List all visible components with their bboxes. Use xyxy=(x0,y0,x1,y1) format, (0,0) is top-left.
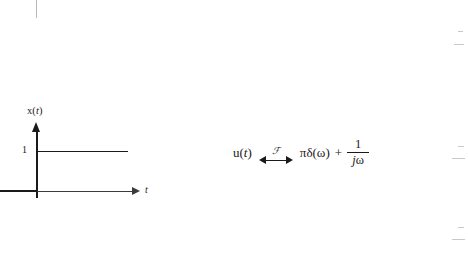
amplitude-tick-label: 1 xyxy=(22,144,27,155)
t-axis-line xyxy=(36,191,134,192)
rhs-impulse-term: πδ(ω) xyxy=(300,146,330,159)
script-f-icon: ℱ xyxy=(272,146,280,156)
fraction-denominator: jω xyxy=(349,153,367,167)
scan-artifact-edge-mark xyxy=(452,239,465,240)
arrow-head-right-icon xyxy=(286,156,293,164)
figure-page: x(t) t 1 u(t) ℱ πδ(ω) + 1 jω xyxy=(0,0,468,275)
signal-segment-negative-time xyxy=(0,190,37,192)
y-axis-label-function: x xyxy=(27,105,32,116)
scan-artifact-edge-mark xyxy=(458,31,463,32)
scan-artifact-edge-mark xyxy=(458,227,464,228)
t-axis-label: t xyxy=(145,184,148,195)
fraction-numerator: 1 xyxy=(352,138,364,152)
y-axis-label-variable: t xyxy=(36,105,39,116)
scan-artifact-edge-mark xyxy=(454,44,464,45)
equation-lhs-close-paren: ) xyxy=(247,145,251,160)
fourier-transform-pair-equation: u(t) ℱ πδ(ω) + 1 jω xyxy=(233,138,369,166)
scan-artifact-edge-mark xyxy=(458,146,464,147)
fraction-denominator-omega: ω xyxy=(356,153,364,167)
t-axis-arrow-icon xyxy=(132,187,140,195)
equation-right-hand-side: πδ(ω) + 1 jω xyxy=(300,138,369,166)
unit-step-plot: x(t) t 1 xyxy=(0,105,175,205)
rhs-plus-operator: + xyxy=(335,146,342,159)
signal-segment-positive-time xyxy=(36,151,128,153)
scan-artifact-edge-mark xyxy=(452,158,465,159)
y-axis-label: x(t) xyxy=(27,105,43,116)
equation-left-hand-side: u(t) xyxy=(233,146,252,159)
scan-artifact-top-rule xyxy=(36,0,37,18)
double-arrow-icon xyxy=(259,156,293,165)
fourier-transform-arrow: ℱ xyxy=(259,139,293,165)
rhs-fraction-term: 1 jω xyxy=(347,138,369,166)
y-axis-line xyxy=(36,130,38,198)
